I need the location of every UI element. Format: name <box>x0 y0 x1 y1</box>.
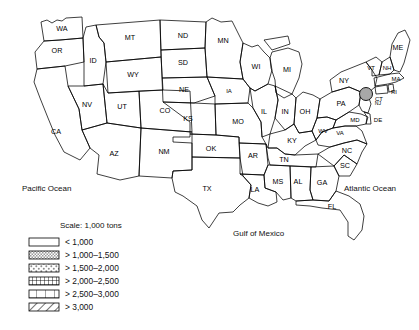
state-label-NY: NY <box>339 76 349 85</box>
us-choropleth-map: WA OR CA ID NV MT WY UT CO AZ NM ND SD N… <box>0 0 419 330</box>
legend-label-1: > 1,000–1,500 <box>65 250 119 260</box>
state-label-TX: TX <box>202 184 211 193</box>
legend-label-0: < 1,000 <box>65 237 94 247</box>
legend-swatch-3 <box>29 277 59 285</box>
state-label-AZ: AZ <box>109 149 119 158</box>
state-label-MO: MO <box>232 117 244 126</box>
state-label-WY: WY <box>127 70 139 79</box>
state-label-NV: NV <box>82 100 92 109</box>
state-label-IN: IN <box>281 107 288 116</box>
legend-swatch-5 <box>29 303 59 311</box>
state-label-ME: ME <box>393 43 404 52</box>
legend-item-5[interactable]: > 3,000 <box>29 302 94 312</box>
state-label-KY: KY <box>287 136 297 145</box>
legend-swatch-0 <box>29 238 59 246</box>
atlantic-ocean-label: Atlantic Ocean <box>344 184 396 193</box>
state-label-WA: WA <box>56 24 68 33</box>
pacific-ocean-label: Pacific Ocean <box>22 184 71 193</box>
state-label-ND: ND <box>178 31 188 40</box>
state-label-RI: RI <box>391 89 397 95</box>
state-labels-group: WA OR CA ID NV MT WY UT CO AZ NM ND SD N… <box>51 24 404 211</box>
state-label-VA: VA <box>336 130 344 136</box>
legend-label-5: > 3,000 <box>65 302 94 312</box>
legend-item-0[interactable]: < 1,000 <box>29 237 94 247</box>
state-label-CO: CO <box>160 106 171 115</box>
state-label-MS: MS <box>273 177 284 186</box>
state-label-WI: WI <box>252 62 261 71</box>
state-TN[interactable] <box>266 144 318 167</box>
state-label-FL: FL <box>328 202 336 211</box>
state-label-PA: PA <box>336 99 345 108</box>
state-label-NC: NC <box>342 146 352 155</box>
state-CA[interactable] <box>34 66 90 160</box>
gulf-of-mexico-label: Gulf of Mexico <box>233 229 285 238</box>
state-label-AL: AL <box>294 177 303 186</box>
state-label-MD: MD <box>350 117 360 123</box>
state-label-GA: GA <box>317 178 328 187</box>
state-label-NH: NH <box>383 65 392 71</box>
state-label-KS: KS <box>183 114 193 123</box>
state-label-UT: UT <box>117 102 127 111</box>
state-label-TN: TN <box>279 155 289 164</box>
state-label-OR: OR <box>52 46 63 55</box>
legend-item-4[interactable]: > 2,500–3,000 <box>29 289 119 299</box>
state-label-CT: CT <box>375 96 383 102</box>
state-label-IA: IA <box>226 88 232 94</box>
state-CT[interactable] <box>375 85 388 94</box>
state-label-SD: SD <box>178 58 188 67</box>
state-label-CA: CA <box>51 127 61 136</box>
legend-swatch-1 <box>29 251 59 259</box>
state-label-SC: SC <box>340 161 350 170</box>
state-label-OH: OH <box>300 107 311 116</box>
state-label-IL: IL <box>261 107 267 116</box>
state-label-MN: MN <box>217 36 228 45</box>
state-FL[interactable] <box>296 191 364 240</box>
legend-label-2: > 1,500–2,000 <box>65 263 119 273</box>
state-label-WV: WV <box>318 128 328 134</box>
state-label-VT: VT <box>367 65 375 71</box>
legend-label-4: > 2,500–3,000 <box>65 289 119 299</box>
state-label-MI: MI <box>283 65 291 74</box>
legend-swatch-4 <box>29 290 59 298</box>
legend: Scale: 1,000 tons < 1,000 > 1,000–1,500 … <box>29 221 122 312</box>
legend-item-2[interactable]: > 1,500–2,000 <box>29 263 119 273</box>
figure-root: WA OR CA ID NV MT WY UT CO AZ NM ND SD N… <box>0 0 419 330</box>
legend-swatch-2 <box>29 264 59 272</box>
state-label-NM: NM <box>158 147 169 156</box>
state-label-MT: MT <box>125 33 136 42</box>
state-label-MA: MA <box>392 76 401 82</box>
state-shapes-group <box>34 17 410 240</box>
state-label-NE: NE <box>179 85 189 94</box>
state-label-ID: ID <box>89 56 96 65</box>
state-label-OK: OK <box>206 144 217 153</box>
state-label-DE: DE <box>374 117 382 123</box>
legend-title: Scale: 1,000 tons <box>60 221 122 230</box>
legend-item-3[interactable]: > 2,000–2,500 <box>29 276 119 286</box>
new-york-city-marker <box>360 88 373 101</box>
legend-item-1[interactable]: > 1,000–1,500 <box>29 250 119 260</box>
legend-label-3: > 2,000–2,500 <box>65 276 119 286</box>
state-MN[interactable] <box>205 18 243 79</box>
state-label-LA: LA <box>251 185 260 194</box>
state-label-AR: AR <box>248 151 258 160</box>
